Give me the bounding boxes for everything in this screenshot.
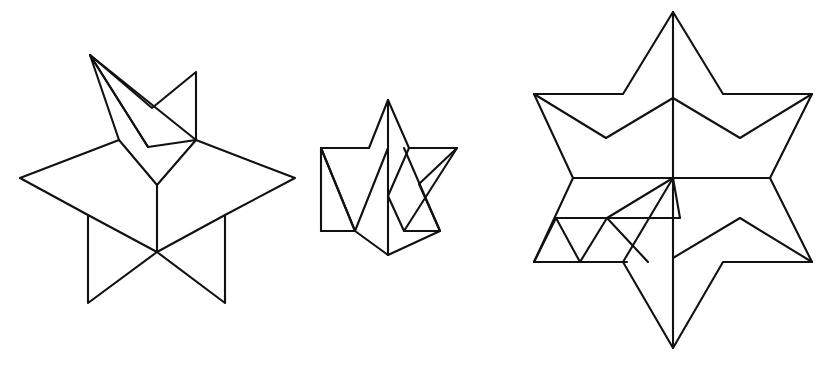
right-star-inner-detail-left-v xyxy=(556,218,580,262)
six-pointed-star-collapsed xyxy=(321,100,457,255)
left-star-fold-crease-lower-right xyxy=(157,215,225,252)
right-star-upper-chevron-left xyxy=(534,94,673,138)
middle-star-fold-crease-diagonal xyxy=(388,148,409,196)
right-star-inner-detail-diagonal xyxy=(607,178,673,218)
right-star-lower-chevron-left-partial xyxy=(623,178,673,262)
six-pointed-star-unfolded xyxy=(534,12,812,348)
right-star-inner-detail-left-edge xyxy=(534,218,556,262)
middle-star-left-triangle-lower xyxy=(321,148,388,231)
five-pointed-star-partially-folded xyxy=(20,55,295,303)
figure-board xyxy=(0,0,831,365)
left-star-fold-crease-center-right xyxy=(157,140,196,185)
right-star-lower-chevron-right xyxy=(673,218,812,262)
left-star-fold-crease-lower-left xyxy=(88,215,157,252)
right-star-upper-chevron-right xyxy=(673,94,812,138)
right-star-inner-detail-mid-v xyxy=(580,218,607,262)
star-figures-svg xyxy=(0,0,831,365)
left-star-star-outline xyxy=(20,55,295,303)
middle-star-right-triangle-upper xyxy=(404,148,440,231)
